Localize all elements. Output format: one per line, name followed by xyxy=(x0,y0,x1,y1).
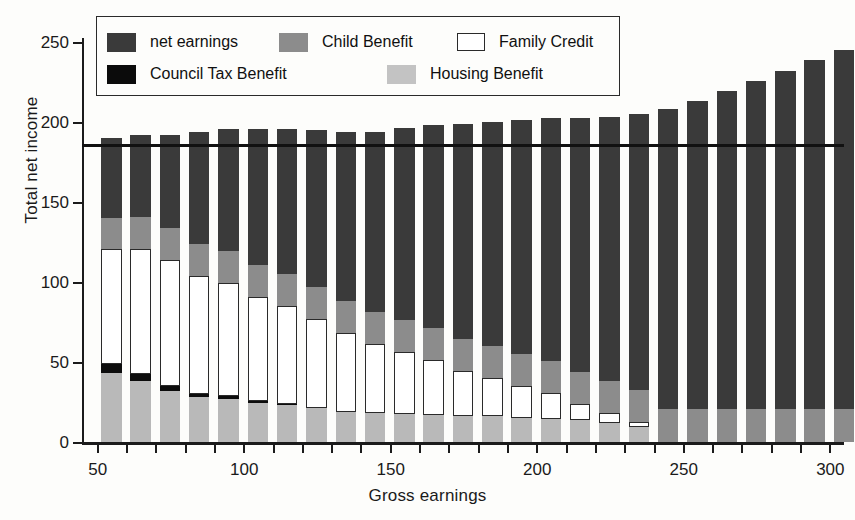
segment-net-earnings xyxy=(160,135,181,228)
x-tick xyxy=(507,442,509,453)
legend-item-family-credit: Family Credit xyxy=(457,33,593,51)
x-tick xyxy=(331,442,333,453)
segment-housing-benefit xyxy=(482,416,503,442)
segment-housing-benefit xyxy=(101,373,122,442)
segment-child-benefit xyxy=(511,354,532,386)
segment-housing-benefit xyxy=(248,403,269,442)
x-tick xyxy=(155,442,157,453)
segment-net-earnings xyxy=(775,71,796,409)
legend-item-housing-benefit: Housing Benefit xyxy=(387,65,543,84)
reference-line xyxy=(82,144,844,147)
y-tick xyxy=(73,442,83,444)
legend-label: Child Benefit xyxy=(322,33,413,51)
y-axis-title: Total net income xyxy=(22,40,42,280)
segment-child-benefit xyxy=(306,287,327,319)
x-tick-label: 150 xyxy=(377,461,405,478)
bar-270 xyxy=(746,81,767,442)
y-tick xyxy=(73,362,83,364)
bar-50 xyxy=(101,138,122,442)
segment-family-credit xyxy=(101,249,122,364)
segment-family-credit xyxy=(306,319,327,409)
x-tick xyxy=(478,442,480,453)
segment-net-earnings xyxy=(511,120,532,354)
x-tick xyxy=(683,442,685,453)
y-tick xyxy=(73,42,83,44)
segment-child-benefit xyxy=(160,228,181,260)
segment-net-earnings xyxy=(687,101,708,409)
x-tick xyxy=(214,442,216,453)
bar-70 xyxy=(160,135,181,442)
segment-child-benefit xyxy=(570,372,591,404)
legend-item-net-earnings: net earnings xyxy=(107,33,279,52)
segment-net-earnings xyxy=(306,130,327,287)
swatch-housing-benefit-icon xyxy=(387,65,416,84)
segment-child-benefit xyxy=(482,346,503,378)
segment-net-earnings xyxy=(834,50,855,409)
segment-net-earnings xyxy=(277,129,298,274)
segment-family-credit xyxy=(218,283,239,397)
bar-140 xyxy=(365,132,386,442)
x-tick xyxy=(741,442,743,453)
x-tick xyxy=(302,442,304,453)
x-tick xyxy=(566,442,568,453)
bar-230 xyxy=(629,114,650,442)
x-tick xyxy=(243,442,245,453)
segment-family-credit xyxy=(394,352,415,414)
segment-council-tax-benefit xyxy=(248,401,269,403)
bar-160 xyxy=(423,125,444,442)
x-tick xyxy=(624,442,626,453)
bar-240 xyxy=(658,109,679,442)
bar-80 xyxy=(189,132,210,442)
segment-family-credit xyxy=(453,371,474,416)
segment-net-earnings xyxy=(541,118,562,361)
bar-290 xyxy=(804,60,825,442)
segment-child-benefit xyxy=(277,274,298,306)
segment-housing-benefit xyxy=(599,423,620,442)
swatch-council-tax-benefit-icon xyxy=(107,65,136,84)
segment-housing-benefit xyxy=(160,391,181,442)
bar-110 xyxy=(277,129,298,442)
segment-child-benefit xyxy=(336,301,357,333)
segment-housing-benefit xyxy=(511,418,532,442)
segment-net-earnings xyxy=(658,109,679,409)
bar-group xyxy=(82,38,844,444)
segment-council-tax-benefit xyxy=(160,386,181,391)
segment-housing-benefit xyxy=(189,397,210,442)
segment-child-benefit xyxy=(248,265,269,297)
y-tick-label: 250 xyxy=(41,34,69,51)
segment-housing-benefit xyxy=(218,399,239,442)
segment-housing-benefit xyxy=(130,381,151,442)
segment-housing-benefit xyxy=(277,405,298,442)
segment-family-credit xyxy=(511,386,532,418)
segment-housing-benefit xyxy=(541,419,562,442)
bar-220 xyxy=(599,117,620,442)
segment-net-earnings xyxy=(365,132,386,313)
y-tick xyxy=(73,202,83,204)
x-tick xyxy=(390,442,392,453)
segment-net-earnings xyxy=(394,128,415,319)
segment-child-benefit xyxy=(453,339,474,371)
y-tick-label: 200 xyxy=(41,114,69,131)
segment-housing-benefit xyxy=(629,427,650,442)
x-tick xyxy=(771,442,773,453)
x-tick xyxy=(97,442,99,453)
segment-housing-benefit xyxy=(570,420,591,442)
segment-net-earnings xyxy=(746,81,767,409)
segment-child-benefit xyxy=(834,409,855,442)
x-tick xyxy=(712,442,714,453)
segment-net-earnings xyxy=(629,114,650,390)
y-tick-label: 100 xyxy=(41,274,69,291)
legend-label: Family Credit xyxy=(499,33,593,51)
x-tick xyxy=(800,442,802,453)
x-tick xyxy=(448,442,450,453)
segment-net-earnings xyxy=(336,132,357,301)
segment-net-earnings xyxy=(453,124,474,338)
y-tick-label: 150 xyxy=(41,194,69,211)
swatch-child-benefit-icon xyxy=(279,33,308,52)
legend-row: net earnings Child Benefit Family Credit xyxy=(107,26,613,58)
legend-label: Council Tax Benefit xyxy=(150,65,287,83)
x-tick xyxy=(595,442,597,453)
segment-housing-benefit xyxy=(394,414,415,442)
swatch-family-credit-icon xyxy=(457,33,485,51)
segment-family-credit xyxy=(189,276,210,394)
